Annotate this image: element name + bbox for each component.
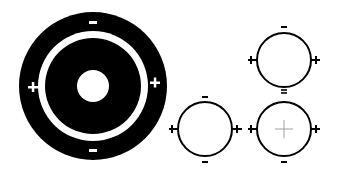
large-target — [19, 12, 167, 160]
small-circle-bottom-left — [169, 97, 242, 162]
center-crosshair-icon — [275, 120, 293, 138]
minus-sign-icon — [89, 21, 97, 24]
plus-sign-icon — [248, 125, 257, 133]
center-hole — [77, 70, 109, 102]
small-circle-top-right — [248, 27, 320, 93]
plus-sign-icon — [311, 125, 320, 133]
plus-sign-icon — [311, 56, 320, 64]
minus-sign-icon — [89, 149, 97, 152]
plus-sign-icon — [232, 125, 242, 133]
diagram-canvas — [0, 0, 338, 176]
plus-sign-icon — [169, 125, 178, 133]
plus-sign-icon — [248, 56, 257, 64]
small-circle-bottom-right — [248, 102, 320, 162]
